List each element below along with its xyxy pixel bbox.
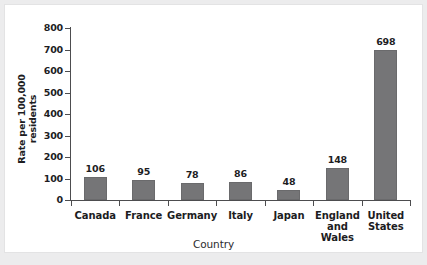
y-tick-0 — [65, 200, 70, 201]
y-axis-title: Rate per 100,000 residents — [16, 44, 38, 194]
bar-value-label-france: 95 — [119, 167, 169, 177]
bar-chart: 0100200300400500600700800 10695788648148… — [0, 0, 427, 265]
x-tick-0 — [71, 200, 72, 206]
bar-value-label-england-and-wales: 148 — [312, 155, 362, 165]
y-tick-400 — [65, 114, 70, 115]
x-tick-2 — [168, 200, 169, 206]
category-label-united-states: United States — [359, 210, 413, 232]
bar-value-label-united-states: 698 — [361, 37, 411, 47]
bar-germany[interactable] — [181, 183, 204, 200]
bar-value-label-canada: 106 — [70, 164, 120, 174]
bar-value-label-japan: 48 — [264, 177, 314, 187]
y-tick-800 — [65, 28, 70, 29]
y-tick-500 — [65, 93, 70, 94]
category-label-germany: Germany — [165, 210, 219, 221]
bar-italy[interactable] — [229, 182, 252, 200]
chart-page: 0100200300400500600700800 10695788648148… — [0, 0, 427, 265]
y-tick-300 — [65, 136, 70, 137]
bar-canada[interactable] — [84, 177, 107, 200]
bar-france[interactable] — [132, 180, 155, 200]
x-tick-1 — [119, 200, 120, 206]
x-axis-title: Country — [0, 238, 427, 250]
category-label-japan: Japan — [262, 210, 316, 221]
x-tick-7 — [410, 200, 411, 206]
y-axis-line — [70, 27, 71, 201]
bar-united-states[interactable] — [374, 50, 397, 200]
y-tick-100 — [65, 179, 70, 180]
x-tick-3 — [216, 200, 217, 206]
bar-value-label-germany: 78 — [167, 170, 217, 180]
y-tick-600 — [65, 71, 70, 72]
x-tick-5 — [313, 200, 314, 206]
bar-england-and-wales[interactable] — [326, 168, 349, 200]
y-tick-label-800: 800 — [17, 23, 63, 33]
category-label-france: France — [116, 210, 170, 221]
category-label-canada: Canada — [68, 210, 122, 221]
x-tick-6 — [362, 200, 363, 206]
category-label-italy: Italy — [213, 210, 267, 221]
bar-value-label-italy: 86 — [216, 169, 266, 179]
x-axis-line — [70, 200, 411, 201]
y-tick-label-0: 0 — [17, 195, 63, 205]
bar-japan[interactable] — [277, 190, 300, 200]
y-tick-200 — [65, 157, 70, 158]
y-tick-700 — [65, 50, 70, 51]
x-tick-4 — [265, 200, 266, 206]
